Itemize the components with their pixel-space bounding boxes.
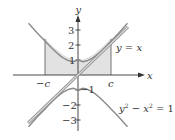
hyperbola-label: y2 − x2 = 1 bbox=[118, 102, 174, 114]
hyperbola-diagram: x y 3 2 1 −1 −2 −3 −c c y = x y2 − x2 = … bbox=[0, 0, 175, 140]
y-tick-label-neg1: −1 bbox=[80, 84, 95, 95]
x-axis-arrow-icon bbox=[138, 73, 145, 78]
y-tick-label-neg2: −2 bbox=[62, 100, 77, 111]
y-tick-label-1: 1 bbox=[69, 55, 75, 66]
y-tick-label-2: 2 bbox=[68, 40, 74, 51]
c-label: c bbox=[108, 78, 114, 89]
line-label: y = x bbox=[115, 42, 142, 53]
x-axis-label: x bbox=[147, 70, 153, 81]
y-axis-arrow-icon bbox=[76, 15, 81, 22]
y-tick-label-3: 3 bbox=[68, 25, 74, 36]
y-axis-label: y bbox=[75, 4, 82, 15]
y-tick-label-neg3: −3 bbox=[62, 115, 77, 126]
neg-c-label: −c bbox=[36, 78, 50, 89]
